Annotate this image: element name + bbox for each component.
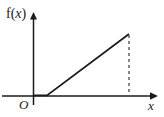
origin-label: O [19, 98, 28, 111]
function-curve [33, 34, 129, 95]
y-axis-label: f(x) [6, 7, 26, 21]
y-axis-label-prefix: f( [6, 6, 15, 21]
y-axis-label-suffix: ) [22, 6, 27, 21]
x-axis-label: x [148, 99, 154, 112]
math-figure: f(x) O x [0, 0, 164, 117]
y-axis-arrowhead-icon [30, 12, 37, 20]
